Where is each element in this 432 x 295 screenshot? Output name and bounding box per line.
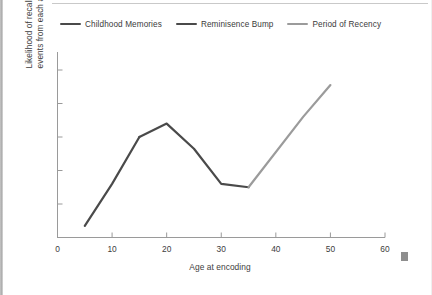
x-axis-tick-label: 40 (264, 244, 288, 254)
x-axis-tick-label: 0 (46, 244, 70, 254)
chart-line-childhood-memories (85, 137, 140, 226)
y-axis-label-line1: Likelihood of recalling (24, 0, 35, 88)
chart-line-reminisence-bump (139, 124, 248, 188)
x-axis-tick-label: 60 (373, 244, 397, 254)
y-axis-label-line2: events from each age (35, 0, 46, 88)
x-axis-tick-label: 50 (318, 244, 342, 254)
x-axis-ticks (58, 233, 386, 238)
chart-page: Childhood Memories Reminisence Bump Peri… (0, 0, 432, 295)
x-axis-label: Age at encoding (150, 262, 290, 272)
x-axis-tick-label: 20 (155, 244, 179, 254)
chart-line-period-of-recency (249, 85, 331, 187)
y-axis-label: Likelihood of recalling events from each… (24, 0, 46, 88)
chart-series-group (85, 85, 331, 226)
x-axis-tick-label: 30 (209, 244, 233, 254)
y-axis-ticks (58, 70, 63, 204)
plot-area: Likelihood of recalling events from each… (0, 0, 432, 295)
x-axis-tick-label: 10 (100, 244, 124, 254)
